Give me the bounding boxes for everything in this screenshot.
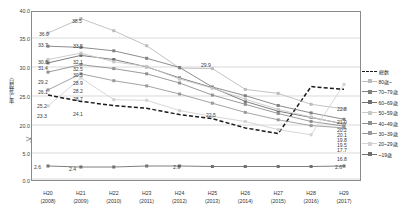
point-value-label: 29.9 [201, 63, 211, 68]
x-label-year: (2014) [227, 198, 263, 206]
x-label-year: (2011) [129, 198, 165, 206]
data-point [211, 67, 214, 70]
data-point [277, 108, 280, 111]
legend-item-50~59歳[interactable]: 50~59歳 [362, 108, 418, 118]
legend-label: 30~39歳 [377, 130, 398, 137]
data-point [112, 98, 115, 101]
x-label-era: H25 [194, 190, 230, 198]
data-point [145, 165, 148, 168]
data-point [244, 98, 247, 101]
point-value-label: 26.1 [38, 90, 48, 95]
data-point [310, 103, 313, 106]
x-label-era: H20 [30, 190, 66, 198]
data-point [79, 52, 82, 55]
legend-item-~19歳[interactable]: ~19歳 [362, 149, 418, 159]
y-tick-25: 25.0 [4, 95, 30, 100]
chart-legend: 総数80歳~70~79歳60~69歳50~59歳40~49歳30~39歳20~2… [362, 66, 418, 160]
data-point [79, 166, 82, 169]
legend-label: 20~29歳 [377, 140, 398, 147]
data-point [310, 165, 313, 168]
data-point [310, 111, 313, 114]
data-point [310, 120, 313, 123]
legend-swatch-icon [362, 79, 377, 85]
legend-item-20~29歳[interactable]: 20~29歳 [362, 139, 418, 149]
x-label-year: (2010) [96, 198, 132, 206]
data-point [277, 128, 280, 131]
data-point [178, 78, 181, 81]
x-label-H29: H29(2017) [326, 190, 362, 205]
data-point [211, 87, 214, 90]
legend-item-70~79歳[interactable]: 70~79歳 [362, 87, 418, 97]
point-value-label: 16.8 [337, 157, 347, 162]
data-point [244, 103, 247, 106]
y-tick-5: 5.0 [4, 152, 30, 157]
legend-item-60~69歳[interactable]: 60~69歳 [362, 97, 418, 107]
data-point [178, 93, 181, 96]
point-value-label: 28.9 [73, 81, 83, 86]
x-label-H20: H20(2008) [30, 190, 66, 205]
data-point [244, 88, 247, 91]
x-label-year: (2017) [326, 198, 362, 206]
x-axis-labels: H20(2008)H21(2009)H22(2010)H23(2011)H24(… [31, 186, 361, 216]
x-label-year: (2015) [260, 198, 296, 206]
data-point [211, 102, 214, 105]
x-label-year: (2016) [293, 198, 329, 206]
x-label-year: (2009) [63, 198, 99, 206]
data-point [244, 94, 247, 97]
data-point [145, 99, 148, 102]
point-value-label: 24.1 [73, 112, 83, 117]
data-point [178, 82, 181, 85]
point-value-label: 2.4 [69, 167, 76, 172]
y-tick-35: 35.0 [4, 37, 30, 42]
data-point [244, 120, 247, 123]
data-point [277, 112, 280, 115]
data-point [277, 165, 280, 168]
point-value-label: 28.2 [73, 89, 83, 94]
legend-item-総数[interactable]: 総数 [362, 66, 418, 76]
data-point [310, 116, 313, 119]
legend-label: ~19歳 [377, 151, 392, 158]
point-value-label: 25.2 [37, 104, 47, 109]
legend-swatch-icon [362, 131, 377, 137]
legend-label: 80歳~ [377, 78, 392, 85]
series-line-~19歳 [48, 166, 344, 167]
data-point [112, 29, 115, 32]
point-value-label: 33.7 [38, 43, 48, 48]
legend-swatch-icon [362, 110, 377, 116]
point-value-label: 2.6 [34, 165, 41, 170]
point-value-label: 33.5 [73, 44, 83, 49]
legend-label: 60~69歳 [377, 99, 398, 106]
data-point [277, 118, 280, 121]
data-point [310, 124, 313, 127]
legend-item-80歳~[interactable]: 80歳~ [362, 76, 418, 86]
legend-item-40~49歳[interactable]: 40~49歳 [362, 118, 418, 128]
point-value-label: 21.0 [337, 120, 347, 125]
point-value-label: 32.1 [73, 60, 83, 65]
legend-item-30~39歳[interactable]: 30~39歳 [362, 128, 418, 138]
chart-root: 自殺死亡率 40.0 35.0 30.0 25.0 20.0 5.0 0.0 H… [0, 0, 418, 219]
point-value-label: 36.0 [39, 32, 49, 37]
data-point [145, 65, 148, 68]
legend-swatch-icon [362, 99, 377, 105]
series-line-80歳~ [48, 19, 344, 109]
data-point [277, 104, 280, 107]
point-value-label: 23.3 [37, 114, 47, 119]
legend-swatch-icon [362, 141, 377, 147]
x-label-era: H21 [63, 190, 99, 198]
x-label-H23: H23(2011) [129, 190, 165, 205]
x-label-H24: H24(2012) [162, 190, 198, 205]
data-point [211, 94, 214, 97]
legend-label: 50~59歳 [377, 109, 398, 116]
point-value-label: 2.6 [335, 165, 342, 170]
x-label-era: H23 [129, 190, 165, 198]
point-value-label: 2.6 [173, 165, 180, 170]
x-label-H27: H27(2015) [260, 190, 296, 205]
data-point [310, 133, 313, 136]
point-value-label: 22.5 [206, 113, 216, 118]
x-label-H21: H21(2009) [63, 190, 99, 205]
y-axis-ticks: 40.0 35.0 30.0 25.0 20.0 5.0 0.0 [2, 0, 30, 219]
x-label-H26: H26(2014) [227, 190, 263, 205]
data-point [178, 66, 181, 69]
x-label-year: (2008) [30, 198, 66, 206]
data-point [343, 165, 346, 168]
